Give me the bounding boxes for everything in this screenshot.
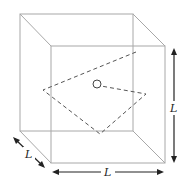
cube-edge-top-left — [20, 14, 51, 46]
cube-edge-bottom-right — [133, 131, 165, 163]
arrowhead-icon — [171, 48, 177, 55]
height-label: L — [169, 102, 177, 115]
arrowhead-icon — [52, 169, 59, 175]
depth-label: L — [24, 148, 32, 161]
width-dimension: L — [52, 165, 164, 179]
height-dimension: L — [168, 48, 180, 163]
arrowhead-icon — [171, 156, 177, 163]
cube — [20, 14, 165, 163]
cube-edge-top-right — [133, 14, 165, 46]
width-label: L — [103, 166, 111, 179]
particle — [93, 80, 101, 88]
cube-diagram: L L L — [0, 0, 190, 185]
particle-trajectory — [43, 52, 146, 134]
arrowhead-icon — [157, 169, 164, 175]
